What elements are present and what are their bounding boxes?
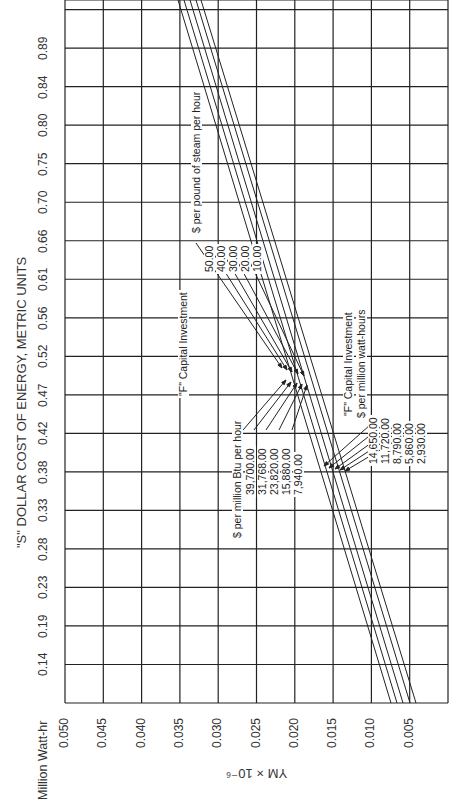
- btu-value-label: 31,768.00: [257, 446, 268, 497]
- watt-title: "F" Capital Investment: [343, 310, 354, 418]
- btu-value-label: 23,820.00: [269, 446, 280, 497]
- x-tick-label: 0.61: [36, 268, 50, 291]
- steam-value-label: 10.00: [252, 244, 263, 274]
- steam-value-label: 40.00: [216, 244, 227, 274]
- y-tick-label: 0.005: [402, 718, 416, 748]
- y-tick-label: 0.050: [57, 718, 71, 748]
- btu-value-label: 7,940.00: [293, 452, 304, 497]
- x-tick-label: 0.14: [36, 653, 50, 676]
- btu-value-label: 15,880.00: [281, 446, 292, 497]
- y-tick-label: 0.035: [172, 718, 186, 748]
- watt-unit: $ per million watt-hours: [356, 307, 367, 420]
- x-tick-label: 0.75: [36, 152, 50, 175]
- y-tick-label: 0.030: [210, 718, 224, 748]
- y-axis-label: YM × 10⁻⁶: [0, 764, 454, 782]
- x-axis-label: Million Watt-hr: [36, 721, 50, 800]
- btu-unit: $ per million Btu per hour: [232, 419, 243, 540]
- x-tick-label: 0.80: [36, 114, 50, 137]
- steam-unit: $ per pound of steam per hour: [191, 90, 202, 235]
- x-tick-label: 0.84: [36, 75, 50, 98]
- steam-title: "F" Capital Investment: [178, 290, 189, 398]
- watt-value-label: 14,650.00: [368, 415, 379, 466]
- steam-value-label: 20.00: [240, 244, 251, 274]
- btu-value-label: 39,700.00: [245, 446, 256, 497]
- watt-value-label: 5,860.00: [404, 421, 415, 466]
- x-tick-label: 0.42: [36, 422, 50, 445]
- x-tick-label: 0.38: [36, 461, 50, 484]
- x-tick-label: 0.89: [36, 37, 50, 60]
- x-tick-label: 0.52: [36, 345, 50, 368]
- y-tick-label: 0.045: [95, 718, 109, 748]
- steam-value-label: 30.00: [228, 244, 239, 274]
- x-tick-label: 0.47: [36, 383, 50, 406]
- x-tick-label: 0.33: [36, 499, 50, 522]
- watt-value-label: 2,930.00: [416, 421, 427, 466]
- y-tick-label: 0.015: [325, 718, 339, 748]
- watt-value-label: 11,720.00: [380, 416, 391, 466]
- x-tick-label: 0.28: [36, 538, 50, 561]
- chart-plot-area: [0, 0, 454, 803]
- x-tick-label: 0.70: [36, 191, 50, 214]
- y-tick-label: 0.020: [287, 718, 301, 748]
- y-tick-label: 0.025: [249, 718, 263, 748]
- watt-value-label: 8,790.00: [392, 421, 403, 466]
- y-tick-label: 0.010: [363, 718, 377, 748]
- x-tick-label: 0.56: [36, 306, 50, 329]
- y-tick-label: 0.040: [134, 718, 148, 748]
- x-tick-label: 0.23: [36, 576, 50, 599]
- steam-value-label: 50.00: [204, 244, 215, 274]
- x-tick-label: 0.19: [36, 615, 50, 638]
- x-tick-label: 0.66: [36, 229, 50, 252]
- chart-title: "S" DOLLAR COST OF ENERGY, METRIC UNITS: [14, 257, 29, 548]
